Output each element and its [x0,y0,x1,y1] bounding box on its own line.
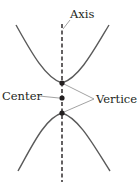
lower-vertex-point [59,110,64,115]
hyperbola-diagram: Axis Center Vertices [0,0,137,193]
center-leader-line [39,96,59,98]
axis-label: Axis [69,7,94,21]
vertices-label: Vertices [95,92,137,106]
axis-leader-line [63,20,70,29]
center-label: Center [2,89,42,103]
upper-vertex-point [59,80,64,85]
lower-branch-curve [18,113,110,171]
vertices-leader-line-lower [64,99,94,112]
center-point [59,95,64,100]
vertices-leader-line-upper [64,84,94,99]
